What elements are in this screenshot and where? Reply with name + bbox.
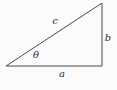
label-angle-theta: θ	[33, 49, 39, 60]
triangle-diagram: c b a θ	[0, 0, 117, 90]
label-side-a: a	[59, 68, 65, 79]
triangle-outline	[6, 3, 102, 66]
label-hypotenuse-c: c	[52, 15, 58, 26]
label-side-b: b	[105, 32, 111, 43]
right-triangle-figure: c b a θ	[0, 0, 117, 90]
